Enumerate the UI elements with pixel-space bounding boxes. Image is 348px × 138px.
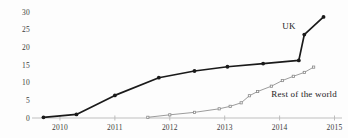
x-tick-2011: 2011: [98, 123, 132, 132]
y-tick-10: 10: [12, 78, 30, 87]
x-tick-2015: 2015: [318, 123, 348, 132]
y-tick-5: 5: [12, 96, 30, 105]
x-tick-2012: 2012: [153, 123, 187, 132]
y-tick-20: 20: [12, 43, 30, 52]
y-tick-30: 30: [12, 8, 30, 17]
y-tick-0: 0: [12, 114, 30, 123]
x-tick-2010: 2010: [43, 123, 77, 132]
line-chart: 051015202530 201020112012201320142015 UK…: [0, 0, 348, 138]
x-tick-2014: 2014: [263, 123, 297, 132]
y-tick-25: 25: [12, 25, 30, 34]
series-label-uk: UK: [282, 21, 295, 31]
series-label-rest-of-the-world: Rest of the world: [271, 89, 337, 99]
x-tick-2013: 2013: [208, 123, 242, 132]
y-tick-15: 15: [12, 61, 30, 70]
